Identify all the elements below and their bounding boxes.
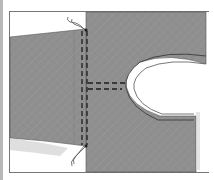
sleeve-piece [10,29,86,146]
sewing-illustration [0,0,214,180]
